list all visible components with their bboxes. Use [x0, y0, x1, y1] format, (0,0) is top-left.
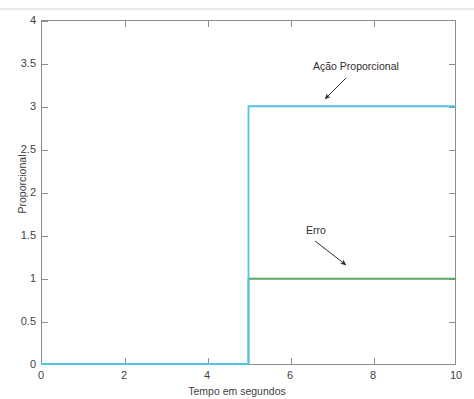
y-axis-title: Proporcional: [16, 129, 28, 239]
x-tick-label: 10: [450, 370, 462, 381]
x-tick-label: 0: [38, 370, 44, 381]
annotation-label-erro: Erro: [306, 224, 326, 236]
x-tick-label: 8: [370, 370, 376, 381]
y-tick-label: 4: [30, 15, 36, 26]
x-tick-label: 2: [121, 370, 127, 381]
x-tick-label: 6: [287, 370, 293, 381]
y-tick-label: 2: [30, 187, 36, 198]
series-line-acao-proporcional: [41, 106, 456, 364]
page-rule-divider: [0, 8, 474, 10]
y-tick-label: 3.5: [21, 58, 36, 69]
x-axis-title: Tempo em segundos: [0, 385, 474, 397]
x-tick-label: 4: [204, 370, 210, 381]
y-tick-label: 0.5: [21, 316, 36, 327]
y-tick-label: 0: [30, 359, 36, 370]
annotation-label-acao-proporcional: Ação Proporcional: [313, 60, 399, 72]
chart-figure: 4 3.5 3 2.5 2 1.5 1 0.5 0 Proporcional: [0, 0, 474, 399]
y-tick-label: 1: [30, 273, 36, 284]
y-tick-label: 3: [30, 101, 36, 112]
